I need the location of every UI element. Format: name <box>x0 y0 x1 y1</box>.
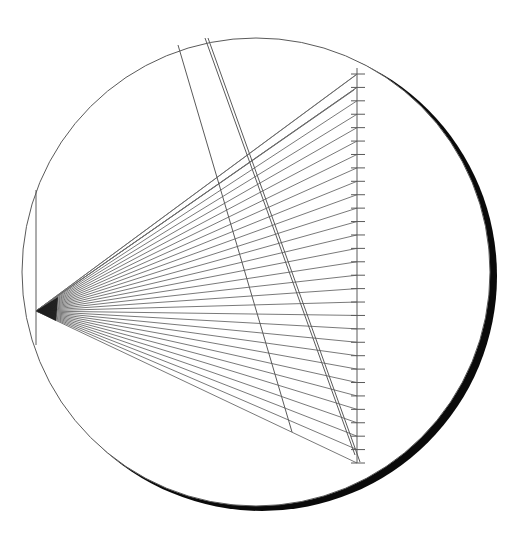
diagram-canvas <box>0 0 510 536</box>
circle-fan-diagram <box>0 0 510 536</box>
